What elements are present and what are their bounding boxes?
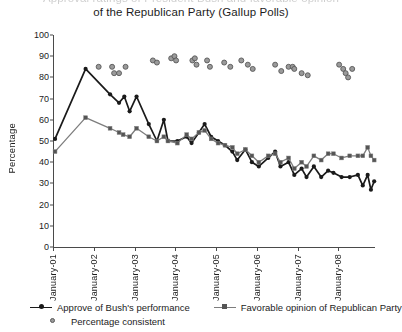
x-tick-label: January-06: [252, 254, 262, 301]
series-circle: [53, 67, 376, 192]
x-tick-label: January-04: [170, 254, 180, 301]
y-tick-label: 30: [39, 178, 49, 188]
legend-label-republican: Favorable opinion of Republican Party: [241, 302, 402, 313]
series-canvas: [53, 35, 375, 247]
chart-title-line-visible: of the Republican Party (Gallup Polls): [0, 5, 382, 19]
legend-key-circle-line-icon: [30, 302, 52, 312]
x-axis-line: [53, 247, 375, 248]
x-tick-label: January-03: [130, 254, 140, 301]
x-tick-mark: [298, 247, 299, 251]
legend-row-bottom: Percentage consistent: [30, 314, 382, 328]
y-tick-label: 40: [39, 157, 49, 167]
chart-title: Approval ratings of President Bush and f…: [0, 0, 382, 19]
plot-area: 0102030405060708090100 January-01January…: [53, 35, 375, 247]
legend-row-top: Approve of Bush's performance Favorable …: [30, 300, 382, 314]
legend-label-consistent: Percentage consistent: [71, 316, 165, 327]
x-tick-mark: [175, 247, 176, 251]
legend-label-approval: Approve of Bush's performance: [57, 302, 190, 313]
y-tick-label: 80: [39, 72, 49, 82]
chart-legend: Approve of Bush's performance Favorable …: [30, 300, 382, 328]
legend-key-square-line-icon: [214, 302, 236, 312]
series-square: [53, 116, 376, 171]
legend-item-consistent: Percentage consistent: [44, 316, 165, 327]
x-tick-mark: [257, 247, 258, 251]
x-tick-mark: [135, 247, 136, 251]
y-tick-label: 60: [39, 115, 49, 125]
y-tick-label: 0: [44, 242, 49, 252]
series-open-circle: [96, 54, 355, 80]
y-tick-label: 70: [39, 94, 49, 104]
y-tick-label: 50: [39, 136, 49, 146]
y-tick-label: 20: [39, 200, 49, 210]
chart-title-line-clipped: Approval ratings of President Bush and f…: [0, 0, 382, 5]
x-tick-label: January-07: [293, 254, 303, 301]
x-tick-label: January-05: [211, 254, 221, 301]
x-tick-mark: [216, 247, 217, 251]
x-tick-label: January-08: [333, 254, 343, 301]
legend-item-approval: Approve of Bush's performance: [30, 302, 190, 313]
legend-key-dot-icon: [44, 316, 66, 326]
x-tick-mark: [338, 247, 339, 251]
x-tick-mark: [53, 247, 54, 251]
y-axis-label: Percentage: [6, 123, 17, 174]
x-tick-mark: [94, 247, 95, 251]
x-tick-label: January-02: [89, 254, 99, 301]
legend-item-republican: Favorable opinion of Republican Party: [214, 302, 402, 313]
y-tick-label: 90: [39, 51, 49, 61]
x-tick-label: January-01: [48, 254, 58, 301]
y-tick-label: 10: [39, 221, 49, 231]
y-tick-label: 100: [34, 30, 49, 40]
